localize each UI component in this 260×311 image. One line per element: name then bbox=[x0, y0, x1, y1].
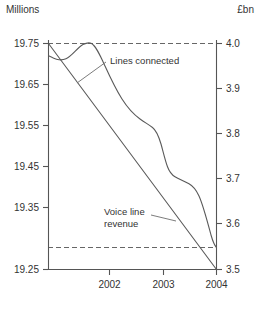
right-tick-label-3-6: 3.6 bbox=[226, 218, 240, 229]
lines-connected-annotation: Lines connected bbox=[110, 55, 179, 66]
right-tick-label-3-7: 3.7 bbox=[226, 173, 240, 184]
x-tick-label-2003: 2003 bbox=[152, 279, 175, 290]
right-tick-label-3-9: 3.9 bbox=[226, 83, 240, 94]
x-tick-label-2002: 2002 bbox=[98, 279, 121, 290]
x-tick-label-2004: 2004 bbox=[205, 279, 228, 290]
right-tick-label-3-8: 3.8 bbox=[226, 128, 240, 139]
voice-line-revenue-annotation-line-1: Voice line bbox=[104, 206, 145, 217]
lines-connected-leader-line bbox=[77, 62, 106, 83]
left-tick-label-19-25: 19.25 bbox=[14, 264, 39, 275]
voice-line-revenue-leader-line bbox=[151, 215, 176, 221]
left-tick-label-19-35: 19.35 bbox=[14, 202, 39, 213]
right-axis-title: £bn bbox=[237, 4, 254, 15]
left-tick-label-19-45: 19.45 bbox=[14, 161, 39, 172]
left-axis-title: Millions bbox=[6, 4, 39, 15]
dual-axis-line-chart: Millions £bn 19.75 19.65 19.55 19.45 19.… bbox=[0, 0, 260, 311]
voice-line-revenue-annotation-line-2: revenue bbox=[104, 218, 138, 229]
right-tick-label-3-5: 3.5 bbox=[226, 264, 240, 275]
left-tick-label-19-65: 19.65 bbox=[14, 79, 39, 90]
left-tick-label-19-75: 19.75 bbox=[14, 38, 39, 49]
right-tick-label-4-0: 4.0 bbox=[226, 38, 240, 49]
left-tick-label-19-55: 19.55 bbox=[14, 120, 39, 131]
series-voice-line-revenue bbox=[49, 44, 217, 270]
chart-canvas: Millions £bn 19.75 19.65 19.55 19.45 19.… bbox=[0, 0, 260, 311]
